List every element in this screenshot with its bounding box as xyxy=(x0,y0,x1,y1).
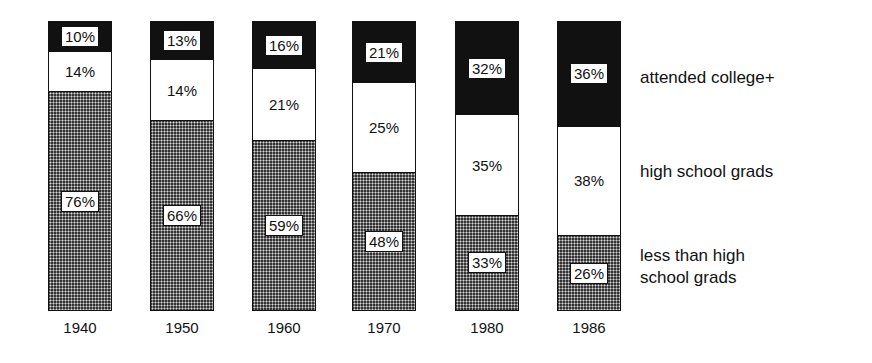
bar-1940: 10% 14% 76% xyxy=(48,21,112,311)
segment-high-school: 14% xyxy=(49,51,111,91)
value-label: 26% xyxy=(570,263,608,284)
segment-college: 21% xyxy=(353,22,415,82)
value-label: 38% xyxy=(571,171,607,190)
value-label: 21% xyxy=(365,42,403,63)
segment-high-school: 14% xyxy=(151,59,213,119)
bar-1950: 13% 14% 66% xyxy=(150,21,214,311)
value-label: 76% xyxy=(61,191,99,212)
x-tick-label: 1960 xyxy=(252,319,316,336)
segment-less-than-high-school: 26% xyxy=(558,235,620,310)
segment-college: 32% xyxy=(456,22,518,114)
bar-1970: 21% 25% 48% xyxy=(352,21,416,311)
value-label: 59% xyxy=(265,215,303,236)
segment-less-than-high-school: 59% xyxy=(253,140,315,310)
x-tick-label: 1980 xyxy=(455,319,519,336)
x-tick-label: 1950 xyxy=(150,319,214,336)
legend-less-than-high-school: less than high school grads xyxy=(640,245,745,289)
value-label: 36% xyxy=(570,63,608,84)
segment-college: 13% xyxy=(151,22,213,59)
segment-college: 10% xyxy=(49,22,111,51)
x-tick-label: 1970 xyxy=(352,319,416,336)
segment-high-school: 38% xyxy=(558,126,620,235)
legend-line: school grads xyxy=(640,267,745,289)
segment-high-school: 25% xyxy=(353,82,415,171)
value-label: 48% xyxy=(365,231,403,252)
bar-1986: 36% 38% 26% xyxy=(557,21,621,311)
value-label: 14% xyxy=(62,62,98,81)
stacked-bar-chart: 10% 14% 76% 1940 13% 14% 66% 1950 16% 21… xyxy=(0,0,872,363)
value-label: 14% xyxy=(164,81,200,100)
value-label: 66% xyxy=(163,205,201,226)
segment-less-than-high-school: 48% xyxy=(353,172,415,310)
value-label: 16% xyxy=(265,35,303,56)
segment-less-than-high-school: 66% xyxy=(151,120,213,310)
value-label: 10% xyxy=(61,26,99,47)
legend-line: less than high xyxy=(640,245,745,267)
value-label: 32% xyxy=(468,58,506,79)
value-label: 25% xyxy=(366,118,402,137)
bar-1960: 16% 21% 59% xyxy=(252,21,316,311)
segment-college: 16% xyxy=(253,22,315,68)
x-tick-label: 1940 xyxy=(48,319,112,336)
segment-high-school: 35% xyxy=(456,114,518,215)
segment-college: 36% xyxy=(558,22,620,126)
segment-high-school: 21% xyxy=(253,68,315,140)
value-label: 33% xyxy=(468,252,506,273)
x-tick-label: 1986 xyxy=(557,319,621,336)
segment-less-than-high-school: 76% xyxy=(49,91,111,310)
bar-1980: 32% 35% 33% xyxy=(455,21,519,311)
value-label: 35% xyxy=(469,156,505,175)
legend-high-school-grads: high school grads xyxy=(640,161,773,183)
legend-attended-college: attended college+ xyxy=(640,67,775,89)
value-label: 13% xyxy=(163,30,201,51)
value-label: 21% xyxy=(266,95,302,114)
segment-less-than-high-school: 33% xyxy=(456,215,518,310)
